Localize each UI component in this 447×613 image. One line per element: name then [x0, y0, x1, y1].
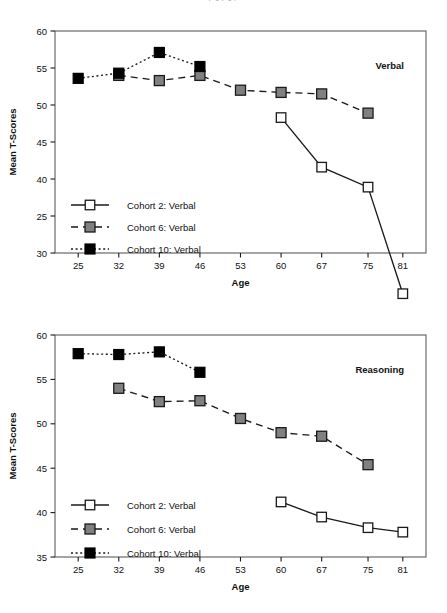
- x-tick-label: 67: [316, 260, 327, 271]
- cropped-header-text: p g y g p: [0, 0, 447, 9]
- x-tick-label: 67: [316, 564, 327, 575]
- legend-marker: [85, 200, 95, 210]
- series-line: [78, 352, 200, 372]
- reasoning-chart-svg: 354045505560253239465360677581AgeMean T-…: [0, 312, 447, 613]
- data-point-marker[interactable]: [317, 512, 327, 522]
- x-tick-label: 25: [73, 564, 84, 575]
- legend-label: Cohort 6: Verbal: [127, 524, 196, 535]
- x-tick-label: 39: [154, 260, 165, 271]
- data-point-marker[interactable]: [195, 396, 205, 406]
- legend-label: Cohort 10: Verbal: [127, 548, 201, 559]
- x-tick-label: 75: [363, 564, 374, 575]
- x-tick-label: 25: [73, 260, 84, 271]
- verbal-chart-svg: 30254045505560253239465360677581AgeMean …: [0, 9, 447, 309]
- data-point-marker[interactable]: [317, 89, 327, 99]
- y-tick-label: 60: [36, 330, 47, 341]
- data-point-marker[interactable]: [363, 182, 373, 192]
- data-point-marker[interactable]: [154, 347, 164, 357]
- legend-marker: [85, 548, 95, 558]
- chart-panel-verbal: 30254045505560253239465360677581AgeMean …: [0, 9, 447, 309]
- y-tick-label: 50: [36, 418, 47, 429]
- data-point-marker[interactable]: [363, 108, 373, 118]
- data-point-marker[interactable]: [276, 113, 286, 123]
- data-point-marker[interactable]: [73, 73, 83, 83]
- chart-panel-reasoning: 354045505560253239465360677581AgeMean T-…: [0, 312, 447, 613]
- data-point-marker[interactable]: [276, 497, 286, 507]
- legend-entry: Cohort 10: Verbal: [71, 244, 201, 255]
- legend-entry: Cohort 6: Verbal: [71, 524, 196, 535]
- data-point-marker[interactable]: [363, 460, 373, 470]
- legend-entry: Cohort 2: Verbal: [71, 200, 196, 211]
- data-point-marker[interactable]: [195, 367, 205, 377]
- x-tick-label: 32: [113, 564, 124, 575]
- data-point-marker[interactable]: [398, 527, 408, 537]
- legend-marker: [85, 524, 95, 534]
- series-line: [78, 52, 200, 78]
- x-axis-title: Age: [232, 277, 250, 288]
- data-point-marker[interactable]: [363, 523, 373, 533]
- y-tick-label: 45: [36, 463, 47, 474]
- x-tick-label: 32: [113, 260, 124, 271]
- legend-entry: Cohort 6: Verbal: [71, 222, 196, 233]
- data-point-marker[interactable]: [154, 76, 164, 86]
- series-line: [281, 118, 403, 294]
- x-tick-label: 53: [235, 260, 246, 271]
- legend-label: Cohort 2: Verbal: [127, 200, 196, 211]
- x-tick-label: 60: [276, 564, 287, 575]
- legend-entry: Cohort 2: Verbal: [71, 500, 196, 511]
- x-tick-label: 81: [398, 564, 409, 575]
- x-axis-title: Age: [232, 581, 250, 592]
- x-tick-label: 46: [195, 564, 206, 575]
- y-tick-label: 45: [36, 137, 47, 148]
- data-point-marker[interactable]: [236, 413, 246, 423]
- data-point-marker[interactable]: [276, 428, 286, 438]
- y-tick-label: 40: [36, 507, 47, 518]
- data-point-marker[interactable]: [317, 162, 327, 172]
- x-tick-label: 81: [398, 260, 409, 271]
- y-axis-title: Mean T-Scores: [7, 412, 18, 479]
- legend-entry: Cohort 10: Verbal: [71, 548, 201, 559]
- data-point-marker[interactable]: [154, 397, 164, 407]
- data-point-marker[interactable]: [114, 383, 124, 393]
- data-point-marker[interactable]: [114, 68, 124, 78]
- data-point-marker[interactable]: [276, 87, 286, 97]
- legend-marker: [85, 222, 95, 232]
- data-point-marker[interactable]: [398, 289, 408, 299]
- y-tick-label: 55: [36, 63, 47, 74]
- data-point-marker[interactable]: [73, 349, 83, 359]
- legend-marker: [85, 244, 95, 254]
- data-point-marker[interactable]: [114, 350, 124, 360]
- x-tick-label: 39: [154, 564, 165, 575]
- y-tick-label: 30: [36, 248, 47, 259]
- x-tick-label: 53: [235, 564, 246, 575]
- y-tick-label: 25: [36, 211, 47, 222]
- y-tick-label: 35: [36, 552, 47, 563]
- x-tick-label: 75: [363, 260, 374, 271]
- y-axis-title: Mean T-Scores: [7, 108, 18, 175]
- legend-label: Cohort 6: Verbal: [127, 222, 196, 233]
- legend-marker: [85, 500, 95, 510]
- y-tick-label: 40: [36, 174, 47, 185]
- data-point-marker[interactable]: [317, 431, 327, 441]
- panel-annotation: Reasoning: [355, 364, 404, 375]
- legend-label: Cohort 10: Verbal: [127, 244, 201, 255]
- series-line: [281, 502, 403, 532]
- x-tick-label: 46: [195, 260, 206, 271]
- y-tick-label: 60: [36, 26, 47, 37]
- data-point-marker[interactable]: [154, 47, 164, 57]
- legend-label: Cohort 2: Verbal: [127, 500, 196, 511]
- x-tick-label: 60: [276, 260, 287, 271]
- y-tick-label: 55: [36, 374, 47, 385]
- data-point-marker[interactable]: [195, 62, 205, 72]
- figure-page: p g y g p 302540455055602532394653606775…: [0, 0, 447, 613]
- data-point-marker[interactable]: [236, 85, 246, 95]
- y-tick-label: 50: [36, 100, 47, 111]
- plot-frame: [55, 31, 426, 253]
- panel-annotation: Verbal: [375, 60, 404, 71]
